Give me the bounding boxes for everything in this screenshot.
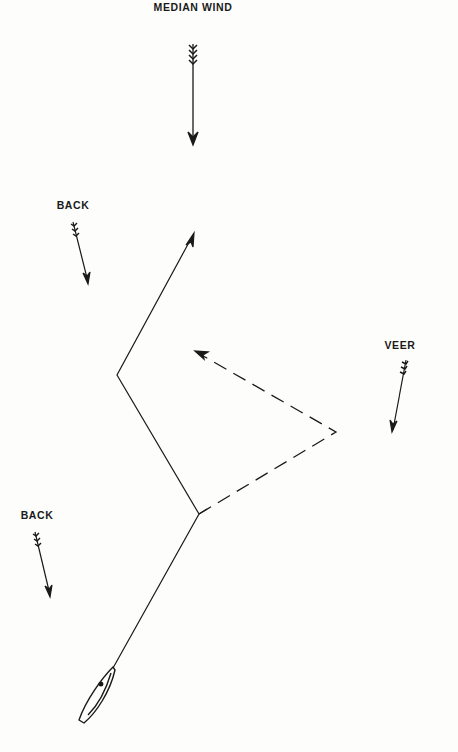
veer-wind-arrow-icon xyxy=(390,360,408,432)
back-upper-wind-arrow-icon xyxy=(71,222,90,284)
back-lower-wind-arrow-icon xyxy=(33,532,52,597)
solid-course-arrowhead-icon xyxy=(186,233,194,247)
wind-shift-diagram: MEDIAN WIND BACK VEER BACK xyxy=(0,0,458,752)
back-upper-label: BACK xyxy=(57,199,90,211)
median-wind-arrow-icon xyxy=(188,44,198,145)
solid-course-line xyxy=(113,233,207,668)
veer-label: VEER xyxy=(385,339,416,351)
back-lower-label: BACK xyxy=(21,509,54,521)
dashed-course-line xyxy=(195,351,336,514)
median-wind-label: MEDIAN WIND xyxy=(154,1,233,13)
sailboat-icon xyxy=(79,667,115,723)
